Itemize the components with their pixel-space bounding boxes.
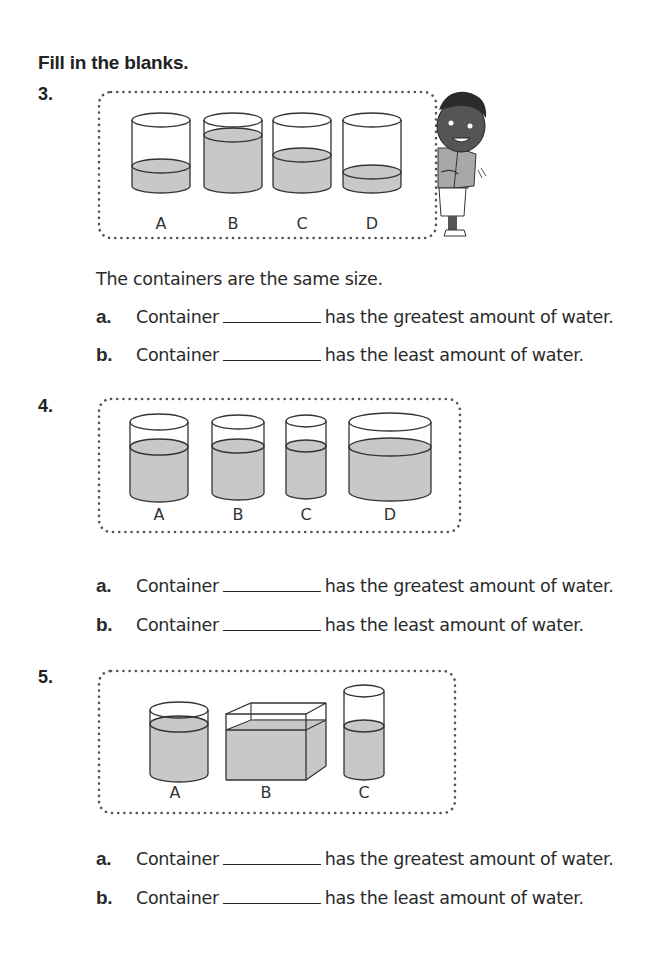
question-letter: b. <box>96 614 136 636</box>
container-3a-icon <box>132 113 190 193</box>
problem-5-figure: A B C <box>96 668 461 818</box>
container-3d-icon <box>343 113 401 193</box>
question-prefix: Container <box>136 615 219 635</box>
problem-5-number: 5. <box>38 667 53 688</box>
question-suffix: has the least amount of water. <box>325 888 584 908</box>
svg-text:D: D <box>366 214 378 233</box>
problem-5a-question: a.Containerhas the greatest amount of wa… <box>96 848 614 870</box>
svg-text:B: B <box>261 783 272 802</box>
question-prefix: Container <box>136 307 219 327</box>
problem-3-containers-illustration: A B C D <box>96 88 516 246</box>
question-letter: a. <box>96 575 136 597</box>
problem-4-figure: A B C D <box>96 396 466 536</box>
problem-3-figure: A B C D <box>96 88 516 246</box>
answer-blank-3a[interactable] <box>223 308 321 323</box>
answer-blank-5b[interactable] <box>223 889 321 904</box>
container-3c-icon <box>273 113 331 193</box>
answer-blank-4b[interactable] <box>223 616 321 631</box>
question-suffix: has the greatest amount of water. <box>325 576 614 596</box>
container-3b-icon <box>204 113 262 193</box>
question-letter: b. <box>96 344 136 366</box>
question-suffix: has the greatest amount of water. <box>325 307 614 327</box>
svg-text:D: D <box>384 505 396 524</box>
container-4d-icon <box>349 413 431 501</box>
question-suffix: has the least amount of water. <box>325 345 584 365</box>
problem-3a-question: a.Containerhas the greatest amount of wa… <box>96 306 614 328</box>
problem-4-containers-illustration: A B C D <box>96 396 466 536</box>
boy-character-icon <box>437 92 486 236</box>
svg-text:B: B <box>228 214 239 233</box>
question-prefix: Container <box>136 849 219 869</box>
container-5a-icon <box>150 702 208 782</box>
problem-5-containers-illustration: A B C <box>96 668 461 818</box>
container-5b-icon <box>226 703 326 780</box>
problem-3-note: The containers are the same size. <box>96 269 383 289</box>
question-prefix: Container <box>136 888 219 908</box>
container-4b-icon <box>212 415 264 500</box>
question-prefix: Container <box>136 576 219 596</box>
problem-3-number: 3. <box>38 84 53 105</box>
svg-text:A: A <box>154 505 165 524</box>
question-prefix: Container <box>136 345 219 365</box>
svg-text:C: C <box>300 505 311 524</box>
svg-text:A: A <box>170 783 181 802</box>
question-letter: b. <box>96 887 136 909</box>
problem-3b-question: b.Containerhas the least amount of water… <box>96 344 584 366</box>
problem-4-number: 4. <box>38 396 53 417</box>
instructions-heading: Fill in the blanks. <box>38 52 188 74</box>
problem-4b-question: b.Containerhas the least amount of water… <box>96 614 584 636</box>
svg-text:C: C <box>296 214 307 233</box>
question-letter: a. <box>96 848 136 870</box>
answer-blank-4a[interactable] <box>223 577 321 592</box>
svg-text:B: B <box>233 505 244 524</box>
problem-5b-question: b.Containerhas the least amount of water… <box>96 887 584 909</box>
answer-blank-3b[interactable] <box>223 346 321 361</box>
svg-text:A: A <box>156 214 167 233</box>
svg-text:C: C <box>358 783 369 802</box>
container-4a-icon <box>130 414 188 502</box>
container-5c-icon <box>344 685 384 780</box>
problem-4a-question: a.Containerhas the greatest amount of wa… <box>96 575 614 597</box>
question-suffix: has the greatest amount of water. <box>325 849 614 869</box>
question-suffix: has the least amount of water. <box>325 615 584 635</box>
question-letter: a. <box>96 306 136 328</box>
container-4c-icon <box>286 415 326 499</box>
answer-blank-5a[interactable] <box>223 850 321 865</box>
